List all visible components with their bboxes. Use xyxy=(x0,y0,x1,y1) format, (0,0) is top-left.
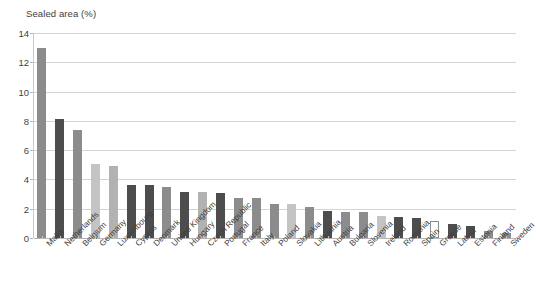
x-tick-mark xyxy=(203,236,204,239)
x-tick-mark xyxy=(363,236,364,239)
x-tick-mark xyxy=(274,236,275,239)
x-tick-mark xyxy=(488,236,489,239)
chart-title: Sealed area (%) xyxy=(26,8,96,19)
x-axis: MaltaNetherlandsBelgiumGermanyLuxembourg… xyxy=(33,239,522,300)
x-tick-mark xyxy=(417,236,418,239)
x-tick-mark xyxy=(95,236,96,239)
x-tick-mark xyxy=(470,236,471,239)
x-tick-mark xyxy=(310,236,311,239)
x-tick-mark xyxy=(113,236,114,239)
bars-layer xyxy=(33,33,515,238)
x-tick-mark xyxy=(220,236,221,239)
x-tick-mark xyxy=(292,236,293,239)
y-axis: 02468101214 xyxy=(0,33,29,238)
y-tick-label: 14 xyxy=(18,28,29,39)
x-tick-mark xyxy=(60,236,61,239)
y-tick-label: 8 xyxy=(24,115,29,126)
x-tick-mark xyxy=(506,236,507,239)
x-tick-mark xyxy=(453,236,454,239)
x-tick-mark xyxy=(149,236,150,239)
x-tick-mark xyxy=(345,236,346,239)
y-tick-label: 10 xyxy=(18,86,29,97)
bar xyxy=(37,48,46,238)
x-tick-mark xyxy=(42,236,43,239)
y-tick-label: 4 xyxy=(24,174,29,185)
y-tick-label: 6 xyxy=(24,145,29,156)
x-tick-mark xyxy=(256,236,257,239)
y-tick-label: 12 xyxy=(18,57,29,68)
x-tick-mark xyxy=(238,236,239,239)
x-tick-mark xyxy=(435,236,436,239)
x-tick-mark xyxy=(328,236,329,239)
x-tick-mark xyxy=(167,236,168,239)
x-tick-mark xyxy=(381,236,382,239)
y-tick-label: 0 xyxy=(24,233,29,244)
x-tick-mark xyxy=(399,236,400,239)
x-tick-mark xyxy=(78,236,79,239)
bar xyxy=(55,119,64,238)
x-tick-mark xyxy=(185,236,186,239)
x-tick-mark xyxy=(131,236,132,239)
y-tick-label: 2 xyxy=(24,203,29,214)
